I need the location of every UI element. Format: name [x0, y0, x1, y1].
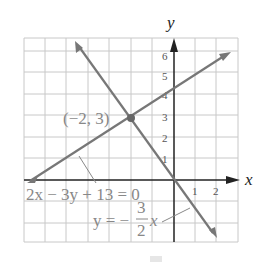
y-tick: 6 — [162, 50, 168, 62]
point-label: (−2, 3) — [63, 109, 109, 128]
intersection-point — [127, 114, 135, 122]
x-axis-label: x — [244, 170, 253, 189]
leader-line-eq2 — [162, 208, 190, 222]
y-axis-label: y — [165, 13, 175, 32]
svg-text:2: 2 — [137, 221, 146, 240]
svg-text:3: 3 — [137, 198, 146, 217]
chart: x y 1 2 1 2 3 4 5 6 (−2, 3) 2x − 3y + 13… — [0, 0, 263, 262]
x-ticks: 1 2 — [192, 185, 219, 197]
y-axis-arrow-icon — [170, 38, 178, 52]
x-tick: 1 — [192, 185, 198, 197]
y-ticks: 1 2 3 4 5 6 — [162, 50, 168, 165]
axes — [24, 38, 240, 242]
y-tick: 5 — [162, 70, 168, 82]
caption-fragment — [150, 256, 162, 262]
svg-text:x: x — [149, 211, 158, 230]
svg-text:y = −: y = − — [93, 211, 129, 230]
x-tick: 2 — [213, 185, 219, 197]
arrow-icon — [219, 52, 231, 61]
equation-label-2: y = − 3 2 x — [93, 198, 158, 240]
equation-label-1: 2x − 3y + 13 = 0 — [26, 185, 140, 204]
y-tick: 3 — [162, 111, 168, 123]
y-tick: 2 — [162, 132, 168, 144]
